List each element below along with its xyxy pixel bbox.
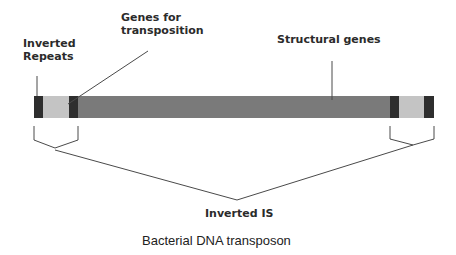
transposition-genes-left	[43, 96, 69, 118]
genes-for-transposition-line1: Genes for	[121, 11, 204, 24]
transposition-genes-right	[399, 96, 424, 118]
genes-for-transposition-label: Genes for transposition	[121, 11, 204, 37]
inverted-repeats-label-line1: Inverted	[23, 37, 76, 50]
inverted-repeat-right-inner	[390, 96, 399, 118]
inverted-repeat-left-inner	[69, 96, 78, 118]
genes-for-transposition-line2: transposition	[121, 24, 204, 37]
inverted-repeats-label-line2: Repeats	[23, 50, 76, 63]
inverted-is-connector	[55, 145, 413, 200]
structural-genes-label: Structural genes	[277, 33, 381, 46]
inverted-repeat-left-outer	[34, 96, 43, 118]
inverted-is-label: Inverted IS	[205, 207, 273, 220]
dna-bar	[34, 96, 434, 118]
inverted-repeats-label: Inverted Repeats	[23, 37, 76, 63]
right-is-bracket	[390, 126, 434, 145]
left-is-bracket	[34, 126, 78, 148]
structural-genes-segment	[78, 96, 390, 118]
inverted-repeat-right-outer	[424, 96, 434, 118]
diagram-caption: Bacterial DNA transposon	[142, 233, 291, 248]
